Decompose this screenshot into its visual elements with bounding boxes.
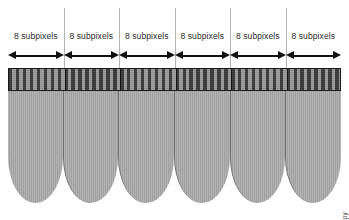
segment-label: 8 subpixels — [64, 29, 120, 43]
pixel-column — [8, 91, 63, 203]
pixel-column — [230, 91, 286, 203]
strip-segment-line — [176, 69, 177, 90]
pixel-column — [118, 91, 174, 203]
strip-segment-line — [65, 69, 66, 90]
double-arrow-icon — [119, 48, 175, 64]
double-arrow-icon — [175, 48, 231, 64]
pixel-column — [174, 91, 230, 203]
segment-label: 8 subpixels — [8, 29, 64, 43]
subpixel-diagram: 8 subpixels 8 subpixels 8 subpixels 8 su… — [0, 0, 349, 220]
pixel-column — [63, 91, 119, 203]
measurement-arrow-row — [8, 48, 341, 64]
pixel-column — [285, 91, 341, 203]
double-arrow-icon — [230, 48, 286, 64]
strip-segment-line — [231, 69, 232, 90]
subpixel-strip — [8, 68, 341, 91]
segment-label-row: 8 subpixels 8 subpixels 8 subpixels 8 su… — [8, 29, 341, 43]
segment-label: 8 subpixels — [119, 29, 175, 43]
strip-segment-line — [287, 69, 288, 90]
double-arrow-icon — [8, 48, 64, 64]
double-arrow-icon — [64, 48, 120, 64]
segment-label: 8 subpixels — [230, 29, 286, 43]
segment-label: 8 subpixels — [175, 29, 231, 43]
segment-label: 8 subpixels — [286, 29, 342, 43]
double-arrow-icon — [286, 48, 342, 64]
strip-segment-line — [120, 69, 121, 90]
attribution-text: © Allscopy — [341, 212, 348, 220]
strip-texture — [9, 69, 340, 90]
pixel-column-row — [8, 91, 341, 203]
